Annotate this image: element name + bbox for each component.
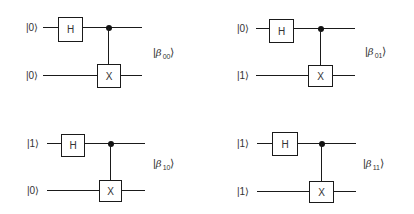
- cnot-control-line: [321, 144, 322, 181]
- qubit-wire-bottom-left: [47, 190, 99, 191]
- qubit-wire-bottom-right: [334, 191, 356, 192]
- x-gate: X: [99, 180, 122, 202]
- hadamard-gate: H: [272, 132, 298, 156]
- qubit-wire-top-left: [47, 143, 61, 144]
- qubit-wire-top-right: [298, 143, 356, 144]
- qubit-wire-bottom-left: [257, 191, 309, 192]
- qubit-wire-bottom-left: [256, 75, 308, 76]
- qubit-wire-bottom-right: [333, 75, 355, 76]
- circuit-beta-11: |1⟩ H |1⟩ X |β11⟩: [211, 116, 414, 214]
- output-bell-state: |β10⟩: [153, 156, 174, 175]
- qubit-wire-bottom-left: [43, 75, 97, 76]
- qubit-wire-bottom-right: [122, 190, 145, 191]
- input-ket-bottom: |0⟩: [27, 185, 39, 197]
- input-ket-top: |0⟩: [237, 23, 249, 35]
- input-ket-bottom: |1⟩: [237, 186, 249, 198]
- beta-symbol: β: [156, 47, 162, 58]
- hadamard-gate: H: [269, 19, 294, 43]
- input-ket-top: |0⟩: [26, 22, 38, 34]
- qubit-wire-top-left: [43, 27, 58, 28]
- qubit-wire-top-right: [294, 28, 355, 29]
- qubit-wire-top-right: [83, 27, 142, 28]
- input-ket-bottom: |0⟩: [26, 70, 38, 82]
- input-ket-bottom: |1⟩: [237, 70, 249, 82]
- control-dot: [318, 26, 324, 32]
- ket-close: ⟩: [380, 157, 384, 169]
- cnot-control-line: [320, 29, 321, 65]
- hadamard-gate: H: [58, 17, 83, 42]
- x-gate: X: [308, 65, 333, 87]
- circuit-beta-01: |0⟩ H |1⟩ X |β01⟩: [211, 1, 414, 108]
- bell-index: 11: [373, 164, 380, 171]
- x-gate: X: [97, 64, 121, 88]
- output-bell-state: |β01⟩: [365, 44, 386, 63]
- control-dot: [108, 141, 114, 147]
- circuit-beta-00: |0⟩ H |0⟩ X |β00⟩: [0, 0, 207, 107]
- ket-close: ⟩: [382, 45, 386, 57]
- cnot-control-line: [110, 144, 111, 180]
- input-ket-top: |1⟩: [237, 138, 249, 150]
- beta-symbol: β: [368, 46, 374, 57]
- output-bell-state: |β00⟩: [153, 45, 174, 64]
- qubit-wire-bottom-right: [121, 75, 142, 76]
- x-gate: X: [309, 181, 334, 203]
- control-dot: [106, 25, 112, 31]
- hadamard-gate: H: [61, 134, 85, 157]
- circuit-beta-10: |1⟩ H |0⟩ X |β10⟩: [0, 116, 207, 214]
- qubit-wire-top-left: [257, 143, 272, 144]
- ket-close: ⟩: [170, 157, 174, 169]
- qubit-wire-top-left: [256, 28, 269, 29]
- input-ket-top: |1⟩: [27, 138, 39, 150]
- control-dot: [319, 141, 325, 147]
- cnot-control-line: [108, 28, 109, 64]
- beta-symbol: β: [156, 158, 162, 169]
- ket-close: ⟩: [170, 46, 174, 58]
- output-bell-state: |β11⟩: [363, 156, 384, 175]
- beta-symbol: β: [366, 158, 372, 169]
- qubit-wire-top-right: [85, 143, 145, 144]
